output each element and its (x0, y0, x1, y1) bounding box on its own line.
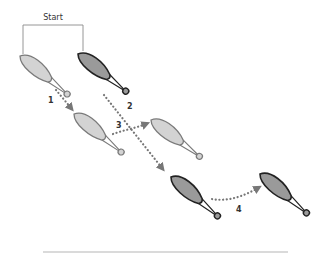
step-label-3: 3 (116, 121, 122, 130)
step-label-4: 4 (236, 205, 242, 214)
start-label: Start (43, 13, 63, 22)
paddle-movement-diagram: Start 1 2 3 4 (0, 0, 327, 254)
step-label-2: 2 (127, 102, 133, 111)
paddle-2-dark (74, 48, 134, 97)
step-arrow-4 (212, 188, 258, 200)
step-label-1: 1 (48, 96, 54, 105)
paddle-4-light (147, 114, 207, 162)
paddle-5-dark (167, 171, 226, 221)
step-arrow-2 (104, 95, 162, 168)
paddle-6-dark (256, 168, 315, 218)
start-bracket (23, 25, 83, 54)
paddle-1-light (16, 50, 75, 100)
